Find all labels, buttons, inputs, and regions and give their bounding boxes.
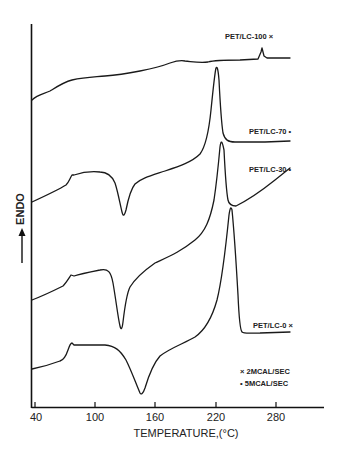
label-pet-lc-0: PET/LC-0 × [253, 321, 293, 330]
tick-label-160: 160 [146, 411, 164, 423]
legend-item-5mcal: • 5MCAL/SEC [240, 379, 289, 388]
legend-item-2mcal: × 2MCAL/SEC [240, 367, 290, 376]
legend: × 2MCAL/SEC • 5MCAL/SEC [240, 367, 290, 388]
label-pet-lc-30: PET/LC-30 • [249, 165, 292, 174]
tick-label-40: 40 [30, 411, 42, 423]
x-ticks [35, 402, 276, 407]
tick-label-220: 220 [207, 411, 225, 423]
x-tick-labels: 40 100 160 220 280 [30, 411, 285, 423]
curve-pet-lc-70 [32, 67, 290, 215]
y-axis-label: ENDO [14, 193, 26, 225]
tick-label-100: 100 [86, 411, 104, 423]
endo-arrow-icon [19, 228, 26, 263]
tick-label-280: 280 [267, 411, 285, 423]
x-axis-label: TEMPERATURE,(°C) [133, 427, 238, 439]
curve-pet-lc-100 [32, 48, 290, 100]
label-pet-lc-70: PET/LC-70 • [249, 127, 292, 136]
label-pet-lc-100: PET/LC-100 × [225, 32, 274, 41]
dsc-chart: 40 100 160 220 280 TEMPERATURE,(°C) ENDO… [0, 0, 339, 449]
